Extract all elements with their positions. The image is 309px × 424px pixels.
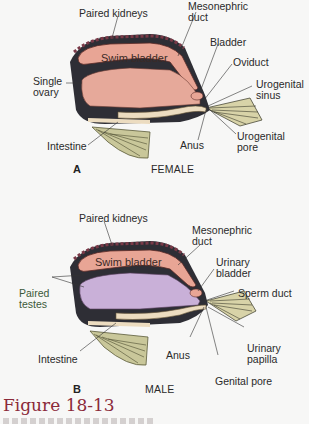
pelvic-fin-icon (92, 127, 150, 158)
panel-sex-male: MALE (145, 383, 174, 395)
label-sperm-duct: Sperm duct (238, 288, 292, 299)
panel-letter-b: B (73, 383, 81, 395)
label-bladder: Bladder (210, 37, 246, 48)
label-urinary-papilla-2: papilla (247, 354, 277, 365)
label-intestine: Intestine (38, 354, 78, 365)
figure-caption-truncated (3, 418, 153, 424)
label-paired-testes-2: testes (19, 299, 47, 310)
panel-female: Paired kidneys Mesonephric duct Bladder … (0, 0, 309, 200)
label-swim-bladder: Swim bladder (95, 257, 162, 268)
anal-fin-icon (206, 98, 262, 126)
label-paired-kidneys: Paired kidneys (79, 213, 148, 224)
label-intestine: Intestine (47, 141, 87, 152)
label-urinary-bladder-2: bladder (216, 268, 251, 279)
label-single-ovary-2: ovary (33, 87, 59, 98)
label-anus: Anus (166, 350, 190, 361)
label-mesonephric-duct-2: duct (188, 12, 208, 23)
label-anus: Anus (180, 140, 204, 151)
panel-sex-female: FEMALE (151, 163, 194, 175)
label-genital-pore: Genital pore (215, 376, 272, 387)
label-mesonephric-duct-2: duct (192, 236, 212, 247)
panel-letter-a: A (73, 163, 81, 175)
label-urogenital-pore-2: pore (237, 142, 258, 153)
label-swim-bladder: Swim bladder (101, 53, 168, 64)
label-urogenital-sinus-2: sinus (256, 90, 281, 101)
label-paired-kidneys: Paired kidneys (79, 8, 148, 19)
label-oviduct: Oviduct (233, 57, 269, 68)
panel-male: Paired kidneys Mesonephric duct Urinary … (0, 205, 309, 395)
figure-title: Figure 18-13 (3, 395, 115, 415)
